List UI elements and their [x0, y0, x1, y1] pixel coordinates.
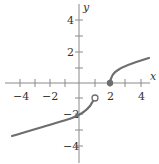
closed-endpoint — [107, 80, 113, 86]
y-tick-label: 4 — [67, 14, 74, 27]
left-curve — [12, 101, 93, 136]
y-tick-label: 2 — [67, 46, 74, 59]
y-axis-label: y — [82, 1, 90, 14]
function-graph: x y −4 −2 2 4 4 2 −2 −4 — [0, 0, 159, 164]
x-axis-label: x — [150, 70, 157, 83]
x-tick-label: −2 — [42, 90, 58, 103]
open-endpoint — [92, 95, 98, 101]
y-tick-label: −4 — [63, 140, 79, 153]
x-tick-label: −4 — [13, 90, 29, 103]
x-tick-label: 2 — [107, 90, 114, 103]
x-tick-label: 4 — [138, 90, 145, 103]
right-curve — [110, 58, 149, 83]
